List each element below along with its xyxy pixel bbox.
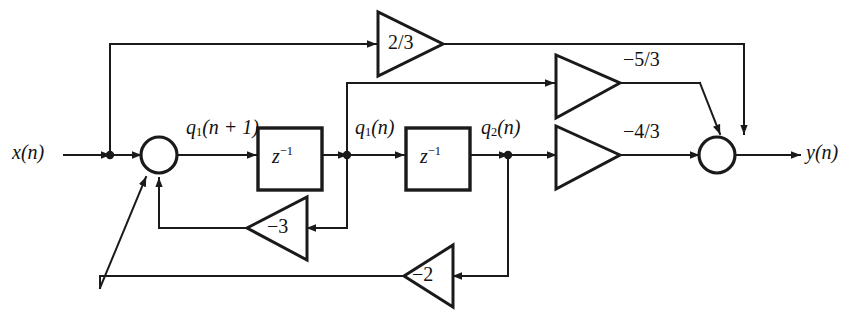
gain-label-2: −2 [412, 263, 433, 286]
q2-tap-dot [504, 151, 512, 159]
delay-2-exponent: −1 [428, 144, 441, 158]
delay-1-base: z [272, 145, 280, 167]
q1-rest: (n) [371, 116, 394, 138]
input-signal-label: x(n) [12, 141, 44, 164]
delay-1-exponent: −1 [280, 144, 293, 158]
q2-label: q2(n) [481, 116, 521, 140]
delay-block-1-label: z−1 [272, 144, 293, 168]
gain-triangle-53 [556, 55, 620, 118]
signal-flow-diagram: x(n) y(n) q1(n + 1) q1(n) q2(n) z−1 z−1 … [0, 0, 863, 318]
delay-block-2-label: z−1 [420, 144, 441, 168]
gain-label-23: 2/3 [388, 31, 414, 54]
q1-label: q1(n) [355, 116, 395, 140]
gain-triangle-43 [556, 126, 620, 189]
gain-label-3: −3 [267, 215, 288, 238]
wire-gain53-diag-to-outsum [700, 83, 720, 134]
q2-rest: (n) [497, 116, 520, 138]
q1-tap-dot [343, 151, 351, 159]
input-tap-dot [106, 151, 114, 159]
delay-2-base: z [420, 145, 428, 167]
input-sum-node [141, 137, 177, 173]
q1-next-base: q [186, 116, 196, 138]
output-signal-label: y(n) [806, 141, 838, 164]
q1-next-rest: (n + 1) [202, 116, 259, 138]
q1-next-label: q1(n + 1) [186, 116, 259, 140]
gain-label-43: −4/3 [623, 120, 660, 143]
output-sum-node [699, 137, 735, 173]
q1-base: q [355, 116, 365, 138]
wire-gain2-diag-to-sum [100, 177, 146, 288]
gain-label-53: −5/3 [623, 48, 660, 71]
q2-base: q [481, 116, 491, 138]
